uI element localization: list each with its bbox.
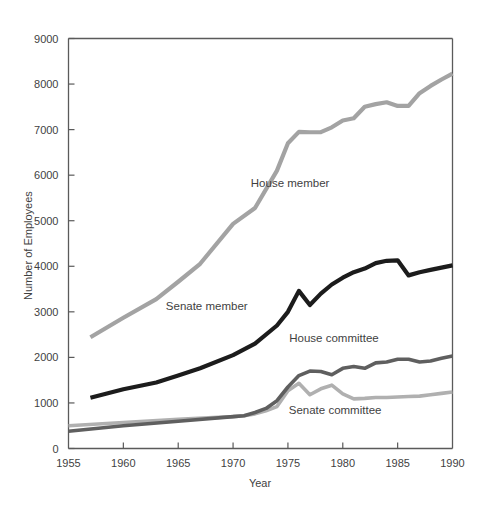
series-label-house-member: House member: [251, 177, 330, 189]
y-tick-label: 3000: [34, 306, 58, 318]
x-tick-label: 1955: [56, 457, 80, 469]
series-label-senate-committee: Senate committee: [289, 404, 382, 416]
x-tick-label: 1975: [276, 457, 300, 469]
x-tick-label: 1980: [331, 457, 355, 469]
x-tick-label: 1970: [221, 457, 245, 469]
x-axis-ticks: [123, 443, 397, 449]
y-tick-label: 1000: [34, 397, 58, 409]
series-label-house-committee: House committee: [289, 332, 378, 344]
y-tick-label: 4000: [34, 260, 58, 272]
y-tick-label: 7000: [34, 124, 58, 136]
employees-line-chart: 0100020003000400050006000700080009000 19…: [0, 0, 485, 506]
y-tick-label: 0: [52, 443, 58, 455]
series-line-senate-member: [90, 260, 452, 397]
x-axis-title: Year: [249, 477, 272, 489]
chart-container: 0100020003000400050006000700080009000 19…: [0, 0, 485, 506]
series-line-house-member: [90, 74, 452, 338]
y-tick-label: 6000: [34, 169, 58, 181]
series-label-senate-member: Senate member: [166, 300, 248, 312]
y-axis-tick-labels: 0100020003000400050006000700080009000: [34, 33, 58, 455]
y-tick-label: 9000: [34, 33, 58, 45]
x-tick-label: 1985: [385, 457, 409, 469]
x-tick-label: 1960: [111, 457, 135, 469]
series-annotations: House member Senate member House committ…: [166, 177, 382, 416]
y-tick-label: 2000: [34, 351, 58, 363]
x-axis-tick-labels: 19551960196519701975198019851990: [56, 457, 464, 469]
chart-series-lines: [69, 74, 453, 432]
series-line-house-committee: [69, 356, 453, 431]
x-tick-label: 1965: [166, 457, 190, 469]
y-axis-ticks: [69, 39, 75, 449]
x-tick-label: 1990: [440, 457, 464, 469]
y-tick-label: 8000: [34, 78, 58, 90]
y-axis-title: Number of Employees: [22, 191, 34, 300]
y-tick-label: 5000: [34, 215, 58, 227]
